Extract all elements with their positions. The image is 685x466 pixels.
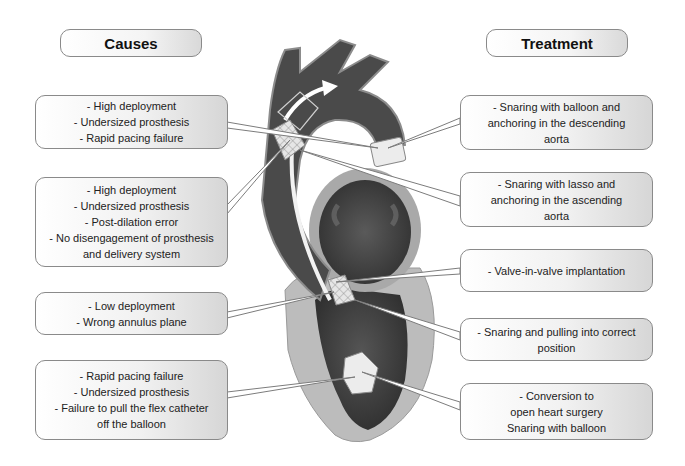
- cause-line: off the balloon: [97, 416, 166, 432]
- treatment-box-ascending-aorta: - Snaring with lasso and anchoring in th…: [460, 172, 653, 227]
- causes-header-label: Causes: [104, 35, 157, 52]
- cause-line: - Wrong annulus plane: [76, 314, 186, 330]
- cause-line: - Undersized prosthesis: [74, 114, 190, 130]
- cause-line: - Low deployment: [88, 298, 175, 314]
- treatment-line: position: [538, 340, 576, 356]
- cause-box-aortic-high: - High deployment - Undersized prosthesi…: [35, 95, 228, 149]
- cause-line: - High deployment: [87, 98, 176, 114]
- cause-box-low-deployment: - Low deployment - Wrong annulus plane: [35, 292, 228, 335]
- cause-line: - High deployment: [87, 182, 176, 198]
- treatment-line: - Snaring and pulling into correct: [477, 324, 635, 340]
- treatment-box-open-heart: - Conversion to open heart surgery Snari…: [460, 383, 653, 440]
- treatment-line: - Valve-in-valve implantation: [488, 263, 625, 279]
- treatment-line: - Snaring with lasso and: [498, 176, 615, 192]
- cause-line: - Post-dilation error: [85, 214, 179, 230]
- cause-line: - Undersized prosthesis: [74, 384, 190, 400]
- treatment-line: aorta: [544, 131, 569, 147]
- treatment-line: open heart surgery: [510, 404, 602, 420]
- treatment-box-descending-aorta: - Snaring with balloon and anchoring in …: [460, 95, 653, 150]
- treatment-header-label: Treatment: [521, 35, 593, 52]
- cause-line: - Rapid pacing failure: [80, 368, 184, 384]
- treatment-header: Treatment: [486, 29, 628, 57]
- cause-line: - No disengagement of prosthesis: [49, 230, 213, 246]
- treatment-line: - Conversion to: [519, 388, 594, 404]
- cause-line: - Undersized prosthesis: [74, 198, 190, 214]
- cause-box-ventricular: - Rapid pacing failure - Undersized pros…: [35, 360, 228, 440]
- treatment-box-valve-in-valve: - Valve-in-valve implantation: [460, 249, 653, 292]
- cause-line: - Rapid pacing failure: [80, 130, 184, 146]
- cause-line: - Failure to pull the flex catheter: [54, 400, 208, 416]
- treatment-line: anchoring in the ascending: [491, 192, 622, 208]
- treatment-line: Snaring with balloon: [507, 420, 606, 436]
- causes-header: Causes: [60, 29, 202, 57]
- treatment-line: - Snaring with balloon and: [493, 99, 620, 115]
- treatment-line: anchoring in the descending: [488, 115, 626, 131]
- cause-line: and delivery system: [83, 246, 180, 262]
- treatment-box-snaring-pulling: - Snaring and pulling into correct posit…: [460, 318, 653, 361]
- treatment-line: aorta: [544, 208, 569, 224]
- cause-box-no-disengagement: - High deployment - Undersized prosthesi…: [35, 177, 228, 267]
